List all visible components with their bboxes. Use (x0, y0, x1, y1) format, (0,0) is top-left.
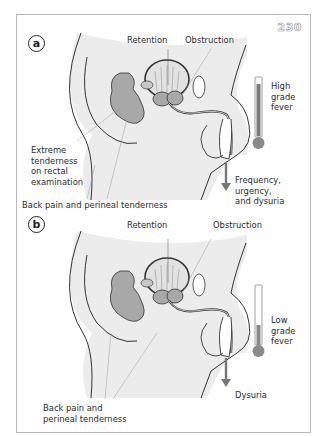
panel-a: a Retention Obstruction Extreme tenderne… (17, 15, 310, 211)
label-retention: Retention (127, 220, 167, 231)
label-back-pain: Back pain and perineal tenderness (22, 200, 168, 211)
label-back-pain: Back pain and perineal tenderness (43, 403, 127, 424)
label-rectal-tenderness: Extreme tenderness on rectal examination (31, 145, 83, 187)
thermometer-icon (253, 77, 265, 149)
label-obstruction: Obstruction (185, 35, 234, 46)
label-obstruction: Obstruction (213, 220, 262, 231)
label-retention: Retention (127, 35, 167, 46)
label-urinary-symptoms: Frequency, urgency, and dysuria (235, 175, 310, 207)
label-fever: High grade fever (271, 81, 295, 113)
panel-badge-a: a (28, 35, 45, 52)
panel-badge-b: b (28, 216, 45, 233)
label-urinary-symptoms: Dysuria (235, 390, 267, 401)
label-fever: Low grade fever (271, 315, 295, 347)
thermometer-icon (253, 285, 265, 357)
panel-b: b Retention Obstruction Dysuria Back pai… (17, 213, 310, 432)
figure-frame: 230 (16, 14, 311, 433)
